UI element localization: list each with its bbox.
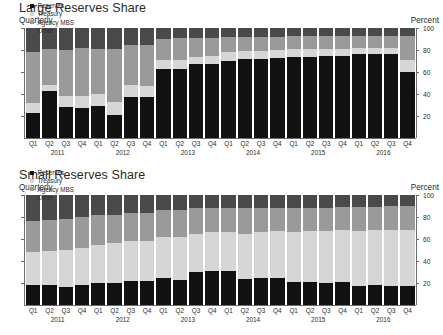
stacked-bar[interactable] xyxy=(384,195,398,305)
y-tick-label: 80 xyxy=(423,214,430,221)
stacked-bar[interactable] xyxy=(335,195,349,305)
stacked-bar[interactable] xyxy=(400,195,414,305)
stacked-bar[interactable] xyxy=(91,28,105,138)
stacked-bar[interactable] xyxy=(319,195,333,305)
stacked-bar[interactable] xyxy=(221,195,235,305)
stacked-bar[interactable] xyxy=(59,195,73,305)
bar-segment-agency-mbs xyxy=(270,37,284,50)
bar-segment-agency-mbs xyxy=(303,208,317,231)
bar-segment-agency-mbs xyxy=(368,36,382,48)
stacked-bar[interactable] xyxy=(140,195,154,305)
stacked-bar[interactable] xyxy=(303,28,317,138)
stacked-bar[interactable] xyxy=(352,28,366,138)
stacked-bar[interactable] xyxy=(189,28,203,138)
stacked-bar[interactable] xyxy=(238,28,252,138)
stacked-bar[interactable] xyxy=(26,195,40,305)
x-tick-label-quarter: Q4 xyxy=(139,306,155,315)
stacked-bar[interactable] xyxy=(205,195,219,305)
x-tick-label-quarter: Q1 xyxy=(220,306,236,315)
bar-segment-agency-mbs xyxy=(26,52,40,103)
stacked-bar[interactable] xyxy=(42,195,56,305)
bar-segment-reserves xyxy=(303,282,317,305)
bar-segment-reserves xyxy=(221,271,235,305)
stacked-bar[interactable] xyxy=(352,195,366,305)
y-tick-right xyxy=(416,261,419,262)
bar-segment-treasury xyxy=(173,60,187,69)
stacked-bar[interactable] xyxy=(59,28,73,138)
x-tick-label-quarter: Q1 xyxy=(351,306,367,315)
stacked-bar[interactable] xyxy=(270,28,284,138)
x-axis-year-labels-large: 201120122013201420152016 xyxy=(25,148,416,157)
bar-segment-reserves xyxy=(400,286,414,305)
bar-segment-treasury xyxy=(254,51,268,59)
stacked-bar[interactable] xyxy=(75,195,89,305)
stacked-bar[interactable] xyxy=(156,195,170,305)
bar-segment-reserves xyxy=(189,64,203,138)
bar-segment-reserves xyxy=(400,72,414,138)
bar-segment-reserves xyxy=(75,108,89,138)
bar-segment-agency-mbs xyxy=(59,219,73,250)
bar-slot xyxy=(399,195,415,305)
stacked-bar[interactable] xyxy=(303,195,317,305)
stacked-bar[interactable] xyxy=(384,28,398,138)
stacked-bar[interactable] xyxy=(400,28,414,138)
stacked-bar[interactable] xyxy=(270,195,284,305)
stacked-bar[interactable] xyxy=(173,28,187,138)
bar-segment-reserves xyxy=(270,58,284,138)
bar-segment-reserves xyxy=(75,285,89,305)
bar-slot xyxy=(334,28,350,138)
bar-segment-agency-mbs xyxy=(124,45,138,86)
stacked-bar[interactable] xyxy=(221,28,235,138)
x-tick-label-year: 2016 xyxy=(351,315,416,324)
bar-slot xyxy=(383,28,399,138)
bar-segment-other xyxy=(189,28,203,38)
bar-segment-agency-mbs xyxy=(173,210,187,236)
stacked-bar[interactable] xyxy=(368,28,382,138)
bar-segment-treasury xyxy=(352,231,366,286)
bar-segment-treasury xyxy=(75,96,89,108)
legend-swatch-icon xyxy=(30,20,34,24)
bar-slot xyxy=(74,195,90,305)
stacked-bar[interactable] xyxy=(335,28,349,138)
y-tick-left xyxy=(21,28,24,29)
stacked-bar[interactable] xyxy=(124,28,138,138)
plot-area-small: 20406080100 xyxy=(24,195,416,305)
y-tick-label: 100 xyxy=(423,25,434,32)
stacked-bar[interactable] xyxy=(140,28,154,138)
stacked-bar[interactable] xyxy=(173,195,187,305)
bar-segment-other xyxy=(384,28,398,36)
stacked-bar[interactable] xyxy=(91,195,105,305)
bar-segment-reserves xyxy=(319,56,333,139)
stacked-bar[interactable] xyxy=(254,195,268,305)
bar-segment-treasury xyxy=(107,102,121,115)
bar-segment-agency-mbs xyxy=(156,210,170,236)
stacked-bar[interactable] xyxy=(75,28,89,138)
stacked-bar[interactable] xyxy=(287,28,301,138)
bar-segment-other xyxy=(238,28,252,37)
stacked-bar[interactable] xyxy=(319,28,333,138)
x-tick-label-quarter: Q3 xyxy=(383,139,399,148)
bar-segment-reserves xyxy=(124,97,138,138)
stacked-bar[interactable] xyxy=(368,195,382,305)
stacked-bar[interactable] xyxy=(189,195,203,305)
bar-segment-other xyxy=(254,28,268,37)
stacked-bar[interactable] xyxy=(254,28,268,138)
bar-segment-treasury xyxy=(91,94,105,106)
x-tick-label-year: 2013 xyxy=(155,148,220,157)
stacked-bar[interactable] xyxy=(205,28,219,138)
bar-slot xyxy=(220,28,236,138)
stacked-bar[interactable] xyxy=(124,195,138,305)
stacked-bar[interactable] xyxy=(42,28,56,138)
bar-segment-reserves xyxy=(270,278,284,306)
stacked-bar[interactable] xyxy=(156,28,170,138)
x-axis-year-labels-small: 201120122013201420152016 xyxy=(25,315,416,324)
bar-segment-other xyxy=(254,195,268,208)
y-tick-left xyxy=(21,195,24,196)
bar-segment-agency-mbs xyxy=(352,207,366,231)
stacked-bar[interactable] xyxy=(107,28,121,138)
stacked-bar[interactable] xyxy=(287,195,301,305)
stacked-bar[interactable] xyxy=(107,195,121,305)
stacked-bar[interactable] xyxy=(238,195,252,305)
bar-segment-reserves xyxy=(26,113,40,138)
stacked-bar[interactable] xyxy=(26,28,40,138)
